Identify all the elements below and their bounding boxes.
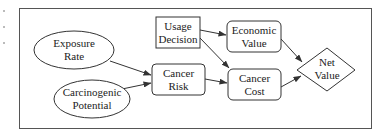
node-cancer-risk: Cancer Risk <box>152 64 205 95</box>
svg-text:Decision: Decision <box>158 33 198 45</box>
svg-text:Cancer: Cancer <box>239 72 270 84</box>
svg-text:Cancer: Cancer <box>163 67 194 79</box>
svg-text:Cost: Cost <box>244 85 264 97</box>
node-carcinogenic-potential: Carcinogenic Potential <box>54 80 130 118</box>
node-economic-value: Economic Value <box>227 21 281 52</box>
node-exposure-rate: Exposure Rate <box>34 31 114 69</box>
svg-text:Carcinogenic: Carcinogenic <box>63 86 122 98</box>
svg-text:Risk: Risk <box>168 80 189 92</box>
svg-text:Economic: Economic <box>232 24 277 36</box>
svg-text:Usage: Usage <box>164 20 192 32</box>
svg-text:Value: Value <box>314 69 339 81</box>
svg-text:Value: Value <box>241 37 266 49</box>
svg-text:Potential: Potential <box>72 99 111 111</box>
margin-fragments <box>3 10 5 44</box>
svg-text:Rate: Rate <box>64 50 84 62</box>
influence-diagram: Exposure Rate Carcinogenic Potential Usa… <box>0 0 389 136</box>
svg-text:Net: Net <box>319 56 335 68</box>
svg-text:Exposure: Exposure <box>53 37 95 49</box>
node-cancer-cost: Cancer Cost <box>228 69 281 100</box>
node-usage-decision: Usage Decision <box>156 17 200 48</box>
